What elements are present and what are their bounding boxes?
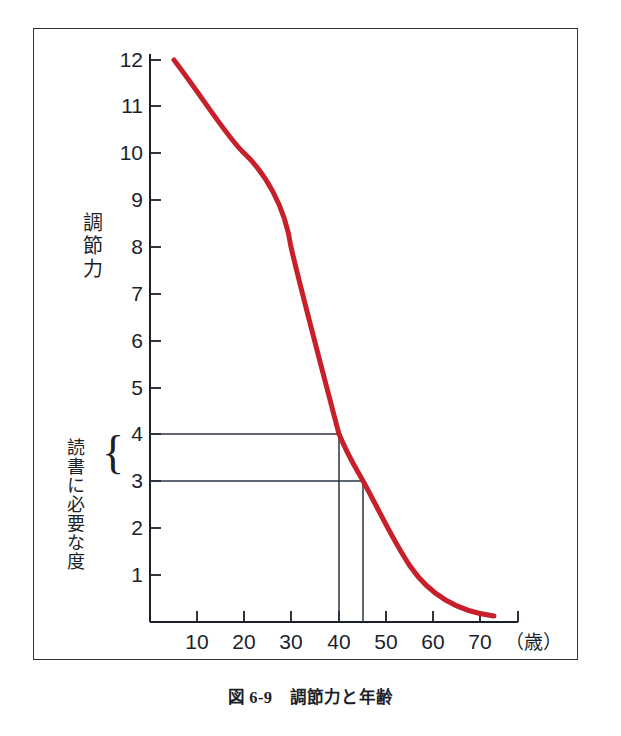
- reading-requirement-label: 読書に必要な度: [62, 438, 86, 571]
- y-tick-label: 11: [121, 94, 143, 117]
- x-tick-label: 20: [232, 630, 255, 653]
- accommodation-age-chart: 12 11 10 9 8 7 6 5 4 3 2 1 10 20: [33, 28, 578, 660]
- y-tick-label: 9: [131, 188, 143, 211]
- x-axis-tick-labels: 10 20 30 40 50 60 70 （歳）: [185, 630, 561, 653]
- y-tick-label: 4: [131, 422, 143, 445]
- y-axis-title: 調節力: [78, 212, 104, 281]
- y-tick-label: 1: [131, 563, 143, 586]
- y-tick-label: 2: [131, 516, 143, 539]
- x-tick-label: 40: [327, 630, 350, 653]
- y-tick-label: 6: [131, 329, 143, 352]
- y-tick-label: 7: [131, 282, 143, 305]
- x-tick-label: 50: [374, 630, 397, 653]
- figure-root: 12 11 10 9 8 7 6 5 4 3 2 1 10 20: [0, 0, 621, 736]
- y-tick-label: 10: [120, 141, 143, 164]
- x-tick-label: 70: [468, 630, 491, 653]
- reference-lines-4D: [150, 434, 339, 622]
- x-tick-label: 60: [421, 630, 444, 653]
- y-tick-label: 3: [131, 469, 143, 492]
- x-axis-unit-label: （歳）: [505, 631, 562, 653]
- reading-requirement-brace-icon: {: [102, 430, 124, 476]
- x-tick-label: 30: [279, 630, 302, 653]
- reference-lines-3D: [150, 481, 363, 622]
- figure-caption: 図 6-9 調節力と年齢: [0, 684, 621, 708]
- y-tick-label: 12: [120, 48, 143, 71]
- y-tick-label: 5: [131, 376, 143, 399]
- x-tick-label: 10: [185, 630, 208, 653]
- accommodation-curve: [174, 60, 494, 616]
- y-tick-label: 8: [131, 235, 143, 258]
- y-axis-ticks: [150, 60, 161, 575]
- y-axis-tick-labels: 12 11 10 9 8 7 6 5 4 3 2 1: [120, 48, 144, 586]
